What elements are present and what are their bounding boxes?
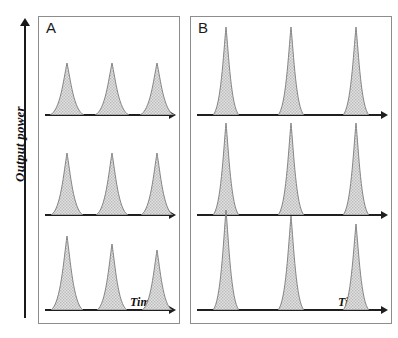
pulse-train-figure: Output power A Time B Time [0,0,398,338]
pulse [142,250,172,310]
pulse [213,210,239,310]
pulse [51,236,83,310]
y-axis: Output power [8,18,38,318]
pulse [343,224,369,310]
time-axis-arrow-icon [381,306,388,314]
pulse [97,244,127,310]
panel-b: B Time [190,16,392,324]
trace-row [39,17,179,311]
trace-row [191,17,391,311]
y-axis-label: Output power [12,79,28,209]
panel-a: A Time [38,16,180,324]
pulse [278,216,304,310]
